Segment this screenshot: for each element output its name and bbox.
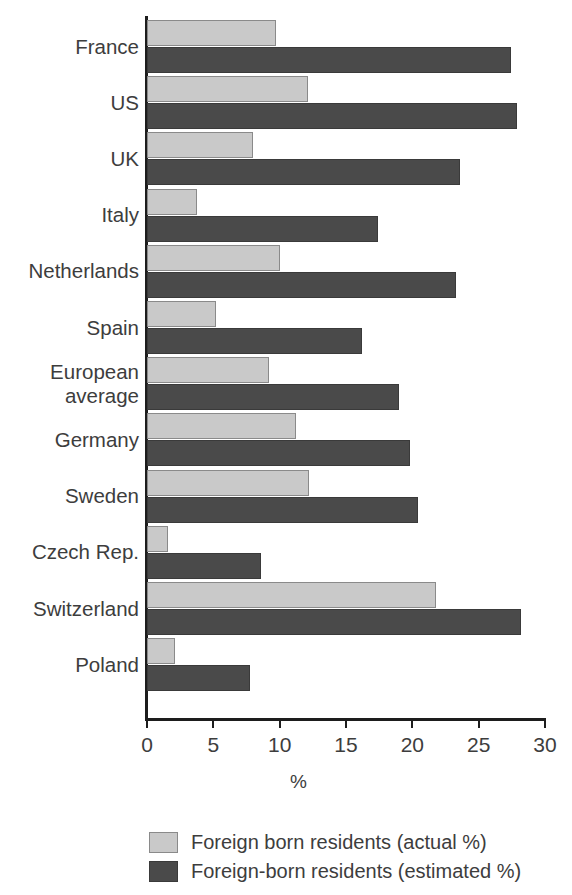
chart-legend: Foreign born residents (actual %)Foreign… (149, 828, 569, 886)
bar-actual (147, 189, 197, 215)
bar-estimated (147, 216, 378, 242)
category-label: France (1, 35, 139, 59)
bar-actual (147, 470, 309, 496)
x-axis-tick-label: 15 (316, 733, 376, 757)
bar-estimated (147, 665, 250, 691)
category-label: Switzerland (1, 597, 139, 621)
bar-actual (147, 582, 436, 608)
bar-group: Switzerland (0, 582, 572, 635)
bar-group: UK (0, 132, 572, 185)
bar-group: European average (0, 357, 572, 410)
category-label: Sweden (1, 484, 139, 508)
bar-actual (147, 301, 216, 327)
x-axis-tick-label: 30 (515, 733, 572, 757)
x-axis-tick-label: 25 (449, 733, 509, 757)
plot-area: FranceUSUKItalyNetherlandsSpainEuropean … (0, 0, 572, 735)
legend-label: Foreign born residents (actual %) (191, 831, 487, 854)
x-axis-tick (146, 719, 148, 728)
category-label: Netherlands (1, 259, 139, 283)
x-axis-tick (411, 719, 413, 728)
category-label: Poland (1, 653, 139, 677)
x-axis-tick-label: 20 (382, 733, 442, 757)
legend-swatch-actual (149, 832, 178, 853)
bar-estimated (147, 272, 456, 298)
bar-chart: FranceUSUKItalyNetherlandsSpainEuropean … (0, 0, 572, 895)
bar-actual (147, 357, 269, 383)
category-label: Spain (1, 316, 139, 340)
bar-actual (147, 413, 296, 439)
legend-swatch-estimated (149, 861, 178, 882)
legend-label: Foreign-born residents (estimated %) (191, 860, 521, 883)
bar-group: Czech Rep. (0, 526, 572, 579)
bar-group: Germany (0, 413, 572, 466)
bar-estimated (147, 440, 410, 466)
category-label: UK (1, 147, 139, 171)
bar-group: Poland (0, 638, 572, 691)
bar-actual (147, 76, 308, 102)
x-axis-tick (544, 719, 546, 728)
bar-estimated (147, 159, 460, 185)
bar-actual (147, 20, 276, 46)
bar-group: Spain (0, 301, 572, 354)
legend-item: Foreign-born residents (estimated %) (149, 857, 569, 886)
bar-actual (147, 638, 175, 664)
bar-actual (147, 132, 253, 158)
category-label: Germany (1, 428, 139, 452)
x-axis-tick (279, 719, 281, 728)
x-axis-tick-label: 5 (183, 733, 243, 757)
category-label: Italy (1, 203, 139, 227)
bar-group: Sweden (0, 470, 572, 523)
bar-estimated (147, 609, 521, 635)
x-axis-tick-label: 10 (250, 733, 310, 757)
x-axis-tick (345, 719, 347, 728)
bar-group: Italy (0, 189, 572, 242)
bar-estimated (147, 103, 517, 129)
bar-estimated (147, 328, 362, 354)
bar-group: US (0, 76, 572, 129)
x-axis-title: % (0, 771, 572, 793)
x-axis-tick (478, 719, 480, 728)
category-label: European average (1, 360, 139, 408)
x-axis-title-label: % (290, 771, 307, 793)
x-axis-tick-label: 0 (117, 733, 177, 757)
bar-actual (147, 526, 168, 552)
category-label: US (1, 91, 139, 115)
bar-estimated (147, 47, 511, 73)
bar-estimated (147, 553, 261, 579)
bar-group: France (0, 20, 572, 73)
bar-estimated (147, 384, 399, 410)
bar-estimated (147, 497, 418, 523)
x-axis-tick (212, 719, 214, 728)
bar-actual (147, 245, 280, 271)
category-label: Czech Rep. (1, 540, 139, 564)
legend-item: Foreign born residents (actual %) (149, 828, 569, 857)
bar-group: Netherlands (0, 245, 572, 298)
